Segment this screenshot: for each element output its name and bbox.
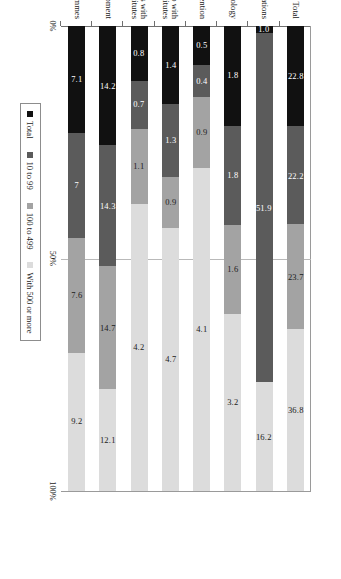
bar-segment-total[interactable]: 1.4 (162, 26, 179, 104)
bar-segment-10-to-99[interactable]: 0.4 (193, 65, 210, 97)
axis-tick (123, 21, 124, 26)
bar-segment-10-to-99[interactable]: 0.7 (131, 81, 148, 129)
bar-segment-total[interactable]: 0.8 (131, 26, 148, 81)
bar-segment-with-500-or-more[interactable]: 36.8 (287, 329, 304, 491)
legend-swatch-icon (28, 152, 34, 158)
value-label: 0.9 (196, 128, 207, 137)
bar-6[interactable]: 0.80.71.14.2 (131, 26, 148, 491)
value-label: 4.1 (196, 325, 207, 334)
axis-tick (60, 21, 61, 26)
bar-segment-total[interactable]: 1.8 (224, 26, 241, 126)
bar-segment-total[interactable]: 1.0 (256, 26, 273, 33)
value-label: 22.2 (288, 171, 304, 180)
bar-segment-100-to-499[interactable]: 14.7 (99, 266, 116, 390)
bar-2[interactable]: 1.051.916.2 (256, 26, 273, 491)
value-label: 7.1 (71, 75, 82, 84)
value-label: 1.6 (227, 265, 238, 274)
bar-segment-with-500-or-more[interactable]: 3.2 (224, 314, 241, 491)
bar-segment-with-500-or-more[interactable]: 4.7 (162, 228, 179, 491)
rotated-figure-canvas: 22.822.223.736.8Total1.051.916.2Law of i… (0, 0, 341, 579)
bar-5[interactable]: 1.41.30.94.7 (162, 26, 179, 491)
category-label: Funding for projects in partnerships wit… (130, 0, 149, 19)
value-label: 16.2 (256, 432, 272, 441)
value-label: 14.2 (100, 81, 116, 90)
axis-tick (216, 21, 217, 26)
value-label: 7.6 (71, 291, 82, 300)
category-label: Law of informatics technology (228, 0, 237, 19)
bar-7[interactable]: 14.214.314.712.1 (99, 26, 116, 491)
category-label: Total (291, 0, 300, 19)
value-label: 1.8 (227, 72, 238, 81)
bar-4[interactable]: 0.50.40.94.1 (193, 26, 210, 491)
legend-label: Total (26, 121, 36, 139)
bar-segment-10-to-99[interactable]: 14.3 (99, 145, 116, 265)
bar-segment-total[interactable]: 14.2 (99, 26, 116, 145)
legend-label: 10 to 99 (26, 162, 36, 190)
gridline-100 (61, 491, 311, 492)
bar-segment-10-to-99[interactable]: 1.3 (162, 104, 179, 177)
bar-segment-100-to-499[interactable]: 23.7 (287, 224, 304, 328)
bar-segment-100-to-499[interactable]: 0.9 (162, 177, 179, 227)
legend-swatch-icon (28, 203, 34, 209)
category-label: Other support programmes (72, 0, 81, 19)
value-label: 12.1 (100, 436, 116, 445)
value-label: 1.8 (227, 171, 238, 180)
bar-segment-with-500-or-more[interactable]: 4.2 (131, 204, 148, 491)
x-tick-label: 50% (48, 251, 57, 266)
legend-swatch-icon (28, 262, 34, 268)
legend-item-total[interactable]: Total (26, 111, 36, 139)
bar-segment-10-to-99[interactable]: 51.9 (256, 33, 273, 382)
bar-1[interactable]: 22.822.223.736.8 (287, 26, 304, 491)
value-label: 4.2 (134, 343, 145, 352)
value-label: 0.4 (196, 77, 207, 86)
bar-segment-10-to-99[interactable]: 1.8 (224, 126, 241, 226)
value-label: 51.9 (256, 203, 272, 212)
bar-segment-100-to-499[interactable]: 1.6 (224, 225, 241, 314)
bar-segment-100-to-499[interactable]: 1.1 (131, 129, 148, 204)
value-label: 22.8 (288, 72, 304, 81)
bar-segment-with-500-or-more[interactable]: 16.2 (256, 382, 273, 491)
legend-item-with-500-or-more[interactable]: With 500 or more (26, 262, 36, 333)
axis-tick (154, 21, 155, 26)
legend-item-100-to-499[interactable]: 100 to 499 (26, 203, 36, 250)
bar-segment-10-to-99[interactable]: 7 (68, 133, 85, 238)
category-label: Law of innovations (259, 0, 268, 19)
value-label: 3.2 (227, 398, 238, 407)
bar-8[interactable]: 7.177.69.2 (68, 26, 85, 491)
bar-segment-100-to-499[interactable]: 7.6 (68, 238, 85, 352)
category-label: Subvention (197, 0, 206, 19)
axis-tick (185, 21, 186, 26)
bar-3[interactable]: 1.81.81.63.2 (224, 26, 241, 491)
legend-label: 100 to 499 (26, 213, 36, 250)
bar-segment-with-500-or-more[interactable]: 9.2 (68, 353, 85, 491)
value-label: 0.5 (196, 41, 207, 50)
category-label: Financing the purchase of machinery and … (103, 0, 112, 19)
value-label: 23.7 (288, 272, 304, 281)
bar-segment-total[interactable]: 0.5 (193, 26, 210, 65)
chart-legend: Total10 to 99100 to 499With 500 or more (20, 103, 41, 341)
x-tick-label: 100% (48, 481, 57, 501)
bar-segment-total[interactable]: 7.1 (68, 26, 85, 133)
bar-segment-10-to-99[interactable]: 22.2 (287, 126, 304, 224)
value-label: 14.7 (100, 323, 116, 332)
value-label: 1.1 (134, 162, 145, 171)
value-label: 14.3 (100, 201, 116, 210)
value-label: 1.4 (165, 61, 176, 70)
value-label: 36.8 (288, 406, 304, 415)
value-label: 7 (74, 181, 78, 190)
plot-area: 22.822.223.736.8Total1.051.916.2Law of i… (61, 26, 311, 491)
value-label: 0.9 (165, 198, 176, 207)
bar-segment-total[interactable]: 22.8 (287, 26, 304, 126)
category-label: Innovation projects developed in partner… (161, 0, 180, 19)
stacked-bar-chart: 22.822.223.736.8Total1.051.916.2Law of i… (0, 0, 341, 579)
axis-tick (279, 21, 280, 26)
axis-tick (91, 21, 92, 26)
legend-label: With 500 or more (26, 272, 36, 333)
x-tick-label: 0% (48, 20, 57, 31)
value-label: 0.8 (134, 49, 145, 58)
legend-item-10-to-99[interactable]: 10 to 99 (26, 152, 36, 190)
value-label: 0.7 (134, 100, 145, 109)
bar-segment-with-500-or-more[interactable]: 12.1 (99, 389, 116, 491)
bar-segment-with-500-or-more[interactable]: 4.1 (193, 168, 210, 491)
bar-segment-100-to-499[interactable]: 0.9 (193, 97, 210, 168)
